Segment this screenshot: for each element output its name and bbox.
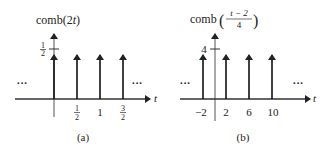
panel-a-x-tick-1: 1: [97, 106, 103, 118]
panel-a: comb(2t) t 1 2 1 2 1 3 2: [15, 13, 158, 144]
svg-text:2: 2: [121, 113, 125, 122]
panel-b-x-tick: 6: [246, 106, 252, 118]
panel-a-ellipsis-right: ···: [131, 77, 142, 89]
svg-text:3: 3: [121, 104, 125, 113]
panel-a-impulses: [54, 55, 123, 99]
panel-a-x-tick-1-2: 1 2: [74, 104, 80, 122]
svg-text:): ): [253, 12, 258, 30]
panel-a-y-tick-label: 1 2: [40, 41, 46, 58]
panel-b-x-tick: −2: [195, 106, 207, 118]
panel-b: comb ( t − 2 4 ) t 4 −2 2 6 10 ··· ···: [179, 8, 317, 144]
svg-text:1: 1: [75, 104, 79, 113]
panel-a-axis-label: t: [154, 92, 158, 104]
svg-text:t − 2: t − 2: [230, 8, 248, 18]
panel-a-x-tick-3-2: 3 2: [120, 104, 126, 122]
panel-b-x-tick: 10: [268, 106, 280, 118]
svg-text:2: 2: [75, 113, 79, 122]
panel-b-title: comb ( t − 2 4 ): [190, 8, 258, 30]
panel-b-y-tick-label: 4: [201, 43, 207, 55]
svg-text:(: (: [219, 12, 224, 30]
panel-b-ellipsis-right: ···: [292, 77, 303, 89]
figure: comb(2t) t 1 2 1 2 1 3 2: [0, 0, 326, 150]
panel-a-title: comb(2t): [36, 13, 80, 27]
panel-b-axis-label: t: [313, 92, 317, 104]
svg-text:comb: comb: [190, 12, 217, 26]
svg-text:2: 2: [41, 49, 45, 58]
panel-b-impulses: [203, 55, 272, 99]
panel-b-x-tick: 2: [223, 106, 229, 118]
svg-text:4: 4: [237, 20, 242, 30]
panel-a-caption: (a): [77, 131, 90, 144]
panel-a-ellipsis-left: ···: [16, 77, 27, 89]
panel-b-caption: (b): [237, 131, 250, 144]
panel-b-ellipsis-left: ···: [179, 77, 190, 89]
